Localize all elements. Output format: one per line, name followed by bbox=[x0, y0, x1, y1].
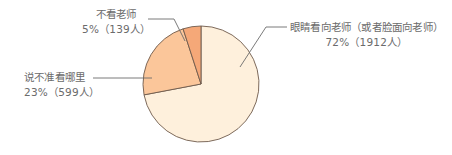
label-eye-contact: 眼睛看向老师（或者脸面向老师） 72%（1912人） bbox=[290, 20, 443, 50]
label-eye-value: 72%（1912人） bbox=[290, 35, 443, 50]
label-eye-name: 眼睛看向老师（或者脸面向老师） bbox=[290, 20, 443, 35]
pie-slices bbox=[143, 26, 259, 142]
label-no-look: 不看老师 5%（139人） bbox=[82, 7, 150, 37]
label-no-name: 不看老师 bbox=[82, 7, 150, 22]
label-no-value: 5%（139人） bbox=[82, 22, 150, 37]
label-unsure-name: 说不准看哪里 bbox=[24, 70, 99, 85]
label-unsure-value: 23%（599人） bbox=[24, 85, 99, 100]
label-unsure: 说不准看哪里 23%（599人） bbox=[24, 70, 99, 100]
